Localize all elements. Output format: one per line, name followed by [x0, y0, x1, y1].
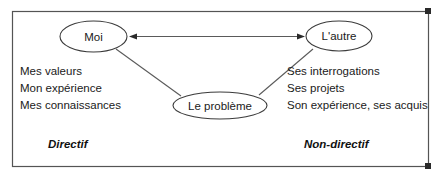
connector-moi-probleme [116, 49, 181, 96]
node-moi[interactable]: Moi [60, 21, 127, 52]
corner-mark-bottom-right-icon [425, 163, 431, 169]
arrowhead-right-icon [297, 34, 305, 40]
right-list-item: Ses interrogations [287, 65, 380, 77]
corner-mark-top-right-icon [425, 8, 431, 14]
node-lautre[interactable]: L'autre [306, 21, 372, 51]
right-list-item: Ses projets [287, 82, 345, 94]
connector-moi-lautre-double-arrow [129, 34, 305, 40]
arrowhead-left-icon [129, 34, 137, 40]
diagram-svg: Moi L'autre Le problème Mes valeurs Mon … [0, 0, 442, 176]
right-list-item: Son expérience, ses acquis [287, 99, 428, 111]
node-probleme-label: Le problème [188, 100, 252, 112]
pole-label-right: Non-directif [304, 138, 370, 150]
right-attribute-list: Ses interrogations Ses projets Son expér… [287, 65, 428, 111]
diagram-canvas: Moi L'autre Le problème Mes valeurs Mon … [0, 0, 442, 176]
left-list-item: Mes valeurs [20, 65, 82, 77]
node-moi-label: Moi [84, 31, 103, 43]
left-attribute-list: Mes valeurs Mon expérience Mes connaissa… [20, 65, 121, 111]
node-probleme[interactable]: Le problème [173, 92, 267, 119]
left-list-item: Mes connaissances [20, 99, 121, 111]
pole-label-left: Directif [48, 138, 89, 150]
left-list-item: Mon expérience [20, 82, 102, 94]
node-lautre-label: L'autre [322, 30, 357, 42]
